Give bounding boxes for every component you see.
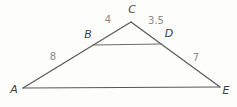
vertex-label-C: C	[128, 3, 136, 16]
vertex-labels: ABCDE	[9, 3, 229, 97]
triangle-diagram: ABCDE 843.57	[0, 0, 237, 107]
vertex-label-B: B	[84, 28, 92, 41]
edge-AC	[23, 22, 131, 88]
measure-label-CD: 3.5	[148, 15, 164, 26]
edge-AE	[23, 87, 220, 88]
vertex-label-E: E	[223, 84, 230, 97]
measure-label-BC: 4	[105, 14, 111, 25]
vertex-label-D: D	[165, 27, 173, 40]
midsegment-BD	[93, 44, 161, 45]
measure-label-DE: 7	[193, 52, 199, 63]
edge-CE	[131, 22, 220, 87]
geometry-canvas: ABCDE 843.57	[0, 0, 237, 107]
measure-label-AB: 8	[50, 51, 56, 62]
vertex-label-A: A	[9, 83, 18, 96]
